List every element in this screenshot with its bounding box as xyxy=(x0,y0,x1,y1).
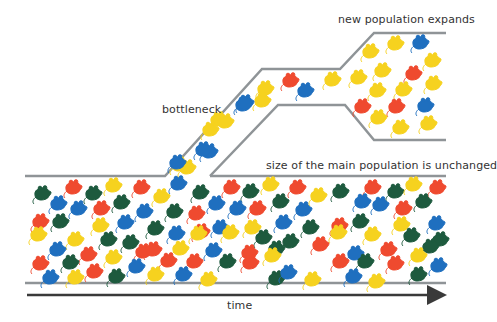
mouse-icon-red xyxy=(248,201,266,219)
mouse-icon-green xyxy=(351,214,369,232)
mouse-icon-green xyxy=(301,220,319,238)
mouse-icon-blue xyxy=(296,83,314,101)
mouse-icon-red xyxy=(428,180,446,198)
mouse-icon-yellow xyxy=(104,178,122,196)
mouse-icon-yellow xyxy=(404,177,422,195)
mouse-icon-red xyxy=(187,206,205,224)
mouse-icon-blue xyxy=(228,201,246,219)
mouse-icon-red xyxy=(331,254,349,272)
mouse-icon-yellow xyxy=(368,83,386,101)
mouse-icon-blue xyxy=(135,204,153,222)
mouse-icon-red xyxy=(311,237,329,255)
mouse-icon-green xyxy=(165,204,183,222)
mouse-icon-green xyxy=(99,232,117,250)
mouse-icon-yellow xyxy=(363,227,381,245)
mouse-icon-red xyxy=(132,180,150,198)
mouse-icon-yellow xyxy=(391,120,409,138)
mouse-icon-blue xyxy=(427,216,445,234)
mouse-icon-yellow xyxy=(303,272,321,290)
mouse-icon-yellow xyxy=(361,44,379,62)
mouse-icon-red xyxy=(387,99,405,117)
mouse-icon-yellow xyxy=(261,177,279,195)
mouse-icon-blue xyxy=(49,196,67,214)
mouse-icon-blue xyxy=(48,242,66,260)
mouse-icon-blue xyxy=(353,194,371,212)
mouse-icon-green xyxy=(51,214,69,232)
mouse-icon-red xyxy=(386,256,404,274)
mouse-icon-blue xyxy=(204,243,222,261)
mouse-icon-blue xyxy=(116,215,134,233)
mouse-icon-yellow xyxy=(309,188,327,206)
mouse-icon-red xyxy=(64,180,82,198)
mouse-icon-blue xyxy=(41,270,59,288)
mouse-icon-blue xyxy=(127,259,145,277)
mouse-icon-green xyxy=(271,194,289,212)
mouse-icon-green xyxy=(218,254,236,272)
mouse-icon-yellow xyxy=(104,250,122,268)
mouse-icon-blue xyxy=(344,269,362,287)
mouse-icon-yellow xyxy=(423,53,441,71)
mouse-icon-red xyxy=(85,264,103,282)
mouse-icon-yellow xyxy=(386,36,404,54)
mouse-icon-red xyxy=(404,66,422,84)
mouse-icon-green xyxy=(33,186,51,204)
mouse-icon-yellow xyxy=(66,270,84,288)
mouse-icon-green xyxy=(146,221,164,239)
mouse-icon-yellow xyxy=(369,110,387,128)
mouse-icon-green xyxy=(331,184,349,202)
mouse-icon-yellow xyxy=(419,116,437,134)
mouse-icon-green xyxy=(386,184,404,202)
mouse-icon-yellow xyxy=(152,189,170,207)
mouse-icon-yellow xyxy=(199,272,217,290)
mouse-icon-yellow xyxy=(394,82,412,100)
mouse-icon-blue xyxy=(274,215,292,233)
mouse-icon-blue xyxy=(207,196,225,214)
mouse-icon-red xyxy=(288,180,306,198)
mouse-icon-yellow xyxy=(323,72,341,90)
main-population-label: size of the main population is unchanged xyxy=(266,159,497,172)
mouse-icon-blue xyxy=(411,35,429,53)
mouse-icon-red xyxy=(353,99,371,117)
mouse-icon-red xyxy=(281,73,299,91)
mouse-icon-yellow xyxy=(373,63,391,81)
mouse-icon-red xyxy=(222,180,240,198)
mouse-icon-green xyxy=(107,269,125,287)
mouse-icon-yellow xyxy=(367,274,385,292)
mouse-icon-yellow xyxy=(29,227,47,245)
mouse-icon-green xyxy=(191,185,209,203)
mouse-icon-green xyxy=(241,184,259,202)
mouse-icon-yellow xyxy=(424,76,442,94)
mouse-icon-yellow xyxy=(349,70,367,88)
mouse-icon-blue xyxy=(429,258,447,276)
mouse-icon-red xyxy=(92,201,110,219)
mouse-icon-green xyxy=(414,194,432,212)
mouse-icon-blue xyxy=(169,176,187,194)
mouse-icon-green xyxy=(112,195,130,213)
mouse-icon-red xyxy=(394,201,412,219)
bottleneck-label: bottleneck xyxy=(162,103,221,116)
new-population-label: new population expands xyxy=(338,13,475,26)
mouse-icon-blue xyxy=(416,98,434,116)
mouse-icon-yellow xyxy=(66,232,84,250)
mouse-icon-red xyxy=(159,253,177,271)
time-axis-label: time xyxy=(227,299,252,312)
mouse-icon-red xyxy=(79,247,97,265)
